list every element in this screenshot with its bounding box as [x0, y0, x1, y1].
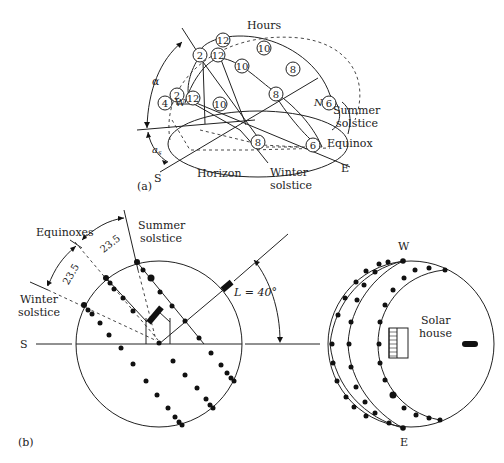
west-label: W: [175, 97, 186, 108]
polar-axis: [159, 286, 228, 344]
noon-vertical: [203, 62, 205, 124]
south-label: S: [154, 172, 162, 185]
arrowhead: [146, 132, 151, 138]
summer-solstice-label: Summer: [138, 219, 186, 232]
solar-house: [389, 328, 408, 358]
azimuth-arc: [148, 132, 168, 162]
winter-solstice-label: solstice: [270, 179, 312, 192]
polar-axis-extension: [234, 234, 288, 281]
hour-label: 10: [236, 61, 249, 72]
hours-title: Hours: [247, 19, 282, 32]
polar-marker-plan: [462, 341, 478, 347]
angle-label-upper: 23.5: [98, 232, 122, 254]
summer-solstice-label: solstice: [336, 117, 378, 130]
summer-solstice-label: Summer: [333, 104, 381, 117]
hour-label: 12: [187, 93, 200, 104]
latitude-label: L = 40°: [233, 286, 277, 299]
arrowhead: [277, 337, 283, 343]
east-label: E: [341, 162, 349, 175]
winter-solstice-label: Winter: [270, 166, 309, 179]
sun-position-dots: [81, 259, 237, 428]
figure-a-celestial-sphere: 12 10 8 6 2 12 10 8 6 2 4 12 10 8 Hours …: [137, 19, 381, 193]
summer-solstice-label: solstice: [140, 232, 182, 245]
panel-a-label: (a): [137, 180, 152, 193]
solar-house-label: Solar: [421, 314, 451, 327]
arrowhead: [144, 122, 150, 128]
winter-solstice-label: Winter: [20, 293, 59, 306]
figure-b-plan-view: W E Solar house: [328, 240, 494, 449]
hour-label: 8: [273, 89, 279, 100]
winter-dashed: [200, 130, 300, 147]
equinox-tick: [70, 240, 82, 248]
hour-label: 10: [214, 99, 227, 110]
hour-label: 8: [290, 64, 296, 75]
equinox-path: [185, 58, 322, 147]
winter-solstice-label: solstice: [18, 306, 60, 319]
west-label: W: [398, 240, 410, 253]
hour-label: 6: [326, 98, 332, 109]
equinox-label: Equinox: [327, 137, 373, 150]
altitude-label: α: [152, 75, 160, 88]
south-label: S: [20, 338, 28, 351]
latitude-angle-arc: [254, 260, 280, 341]
solar-house-label: house: [419, 327, 452, 340]
east-label: E: [400, 436, 408, 449]
azimuth-label: as: [152, 144, 162, 157]
equinox-path-line: [106, 278, 147, 322]
arrowhead: [47, 280, 52, 286]
hour-label: 10: [258, 43, 271, 54]
equinoxes-label: Equinoxes: [36, 226, 94, 239]
hour-markers: 12 10 8 6 2 12 10 8 6 2 4 12 10 8: [158, 33, 336, 152]
hour-label: 12: [212, 50, 225, 61]
winter-solstice-ray: [30, 282, 48, 290]
winter-solstice-ray-dashed: [48, 290, 155, 340]
hour-label: 2: [197, 50, 203, 61]
north-label: N: [313, 97, 324, 108]
sun-path-diagram: 12 10 8 6 2 12 10 8 6 2 4 12 10 8 Hours …: [0, 0, 504, 463]
summer-path-arc: [378, 270, 444, 420]
horizon-label: Horizon: [197, 167, 242, 180]
angle-label-lower: 23.5: [61, 262, 82, 287]
hour-label: 12: [217, 35, 230, 46]
panel-b-label: (b): [18, 436, 34, 449]
figure-b-section-view: Equinoxes Summer solstice Winter solstic…: [18, 210, 320, 449]
hour-label: 4: [162, 98, 168, 109]
collector-panel: [146, 305, 163, 324]
hour-label: 8: [255, 137, 261, 148]
hour-label: 6: [310, 140, 316, 151]
